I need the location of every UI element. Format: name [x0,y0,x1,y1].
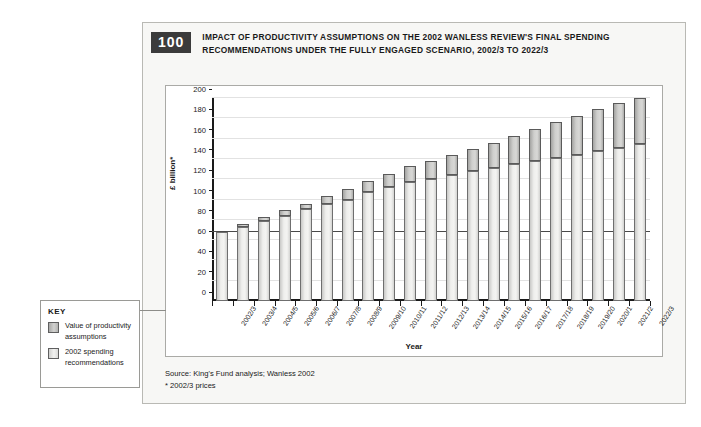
bar-segment-recommendations [529,161,541,301]
figure-panel: 100 IMPACT OF PRODUCTIVITY ASSUMPTIONS O… [142,22,686,404]
source-text: Source: King's Fund analysis; Wanless 20… [165,368,315,379]
legend-label-productivity: Value of productivity assumptions [65,321,132,342]
x-axis-tick-label: 2006/7 [324,305,342,327]
y-axis-tick-label: 180 [193,105,212,114]
bar-segment-recommendations [446,175,458,301]
bar-segment-productivity [404,166,416,182]
x-axis-tick-label: 2004/5 [282,305,300,327]
bar-segment-productivity [258,217,270,221]
bar-2020-1 [592,109,604,301]
bar-segment-productivity [508,136,520,164]
bar-2005-6 [279,210,291,301]
bar-segment-recommendations [279,216,291,301]
figure-header: 100 IMPACT OF PRODUCTIVITY ASSUMPTIONS O… [143,23,685,63]
bar-2015-16 [488,143,500,301]
y-axis-label: £ billion* [168,157,177,190]
bar-2011-12 [404,166,416,301]
y-axis-tick-label: 140 [193,145,212,154]
x-axis-tick-label: 2020/1 [616,305,634,327]
bar-segment-productivity [613,103,625,148]
bar-2009-10 [362,181,374,301]
bar-2021-2 [613,103,625,301]
y-axis-tick-label: 100 [193,186,212,195]
bar-segment-productivity [529,129,541,160]
bar-2019-20 [571,116,583,301]
x-axis-tick-label: 2022/3 [657,305,675,327]
bar-segment-recommendations [321,204,333,301]
bar-series [212,98,650,301]
legend-swatch-recommendations-icon [48,348,59,359]
y-axis-tick-label: 40 [198,247,212,256]
legend-item-recommendations: 2002 spending recommendations [48,347,132,368]
bar-segment-recommendations [342,200,354,302]
bar-segment-recommendations [383,187,395,301]
x-axis-tick-label: 2021/2 [636,305,654,327]
bar-segment-recommendations [634,144,646,301]
x-axis-tick-label: 2008/9 [365,305,383,327]
x-axis-tick-label: 2009/10 [388,305,408,330]
bar-segment-productivity [279,210,291,216]
bar-segment-recommendations [613,148,625,301]
y-axis-tick-label: 200 [193,85,212,94]
bar-segment-productivity [634,98,646,144]
bar-segment-recommendations [300,209,312,301]
x-axis-tick-label: 2017/18 [555,305,575,330]
bar-2013-14 [446,155,458,301]
bar-2004-5 [258,217,270,301]
plot-area: 020406080100120140160180200 [212,98,650,301]
bar-2022-3 [634,98,646,301]
x-axis-tick-label: 2015/16 [513,305,533,330]
legend-item-productivity: Value of productivity assumptions [48,321,132,342]
bar-segment-productivity [342,189,354,199]
bar-segment-productivity [300,204,312,209]
source-note: Source: King's Fund analysis; Wanless 20… [165,368,315,391]
y-axis-tick-label: 80 [198,206,212,215]
y-axis-tick-label: 160 [193,125,212,134]
legend-key-box: KEY Value of productivity assumptions 20… [40,300,140,388]
bar-segment-productivity [446,155,458,175]
bar-2010-11 [383,174,395,301]
figure-number-badge: 100 [151,32,191,53]
bar-2003-4 [237,224,249,301]
x-axis-label: Year [166,342,662,351]
bar-2014-15 [467,149,479,301]
bar-segment-recommendations [237,227,249,301]
bar-segment-recommendations [592,151,604,301]
y-axis-tick-label: 60 [198,227,212,236]
x-axis-tick-label: 2002/3 [240,305,258,327]
x-axis-tick-label: 2016/17 [534,305,554,330]
price-note-text: * 2002/3 prices [165,380,315,391]
bar-segment-productivity [467,149,479,171]
bar-segment-recommendations [467,171,479,301]
x-axis-tick-label: 2007/8 [344,305,362,327]
bar-segment-productivity [237,224,249,227]
bar-segment-recommendations [258,221,270,301]
figure-title: IMPACT OF PRODUCTIVITY ASSUMPTIONS ON TH… [202,31,675,57]
bar-2016-17 [508,136,520,301]
bar-segment-recommendations [488,168,500,301]
bar-2008-9 [342,189,354,301]
x-axis-tick-label: 2012/13 [451,305,471,330]
bar-segment-recommendations [571,155,583,301]
legend-label-recommendations: 2002 spending recommendations [65,347,132,368]
bar-segment-productivity [550,122,562,158]
bar-2007-8 [321,196,333,301]
legend-heading: KEY [48,307,132,316]
x-axis-tick-label: 2018/19 [576,305,596,330]
x-axis-tick-label: 2005/6 [303,305,321,327]
legend-swatch-productivity-icon [48,322,59,333]
bar-segment-productivity [425,161,437,179]
x-axis-tick-label: 2010/11 [409,305,428,330]
bar-segment-productivity [321,196,333,203]
x-axis-tick-label: 2003/4 [261,305,279,327]
y-axis-tick-label: 120 [193,166,212,175]
bar-segment-recommendations [508,164,520,301]
bar-segment-productivity [571,116,583,155]
bar-segment-recommendations [550,158,562,301]
bar-segment-recommendations [404,182,416,301]
bar-segment-productivity [592,109,604,151]
bar-segment-productivity [383,174,395,187]
bar-2006-7 [300,204,312,301]
bar-2002-3 [216,232,228,301]
bar-segment-recommendations [362,192,374,301]
